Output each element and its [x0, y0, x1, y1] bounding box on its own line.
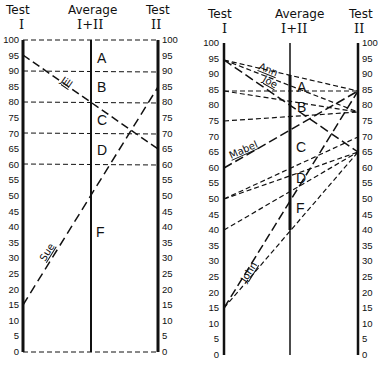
sue-label: Sue — [37, 241, 56, 263]
tick-label: 65 — [362, 146, 373, 157]
tick-label: 100 — [162, 34, 178, 45]
left-nomograph: Test I Average I+II Test II A B C D F Ji — [5, 3, 170, 352]
left-test1-num: I — [19, 17, 24, 32]
tick-label: 85 — [8, 81, 19, 92]
tick-label: 0 — [162, 346, 167, 357]
right-average-header: Average — [275, 7, 324, 21]
tick-label: 15 — [162, 299, 173, 310]
tick-label: 0 — [362, 349, 367, 360]
tick-label: 20 — [162, 284, 173, 295]
tick-label: 35 — [208, 240, 219, 251]
tick-label: 20 — [362, 287, 373, 298]
tick-label: 70 — [362, 131, 373, 142]
tick-label: 70 — [162, 128, 173, 139]
tick-label: 75 — [8, 112, 19, 123]
right-nomograph: Test I Average I+II Test II A B C D F — [207, 7, 373, 355]
tick-label: 90 — [162, 65, 173, 76]
tick-label: 80 — [362, 99, 373, 110]
grade-f: F — [96, 224, 105, 240]
tick-label: 85 — [162, 81, 173, 92]
grade-a: A — [297, 79, 307, 95]
tick-label: 80 — [162, 96, 173, 107]
right-test2-header: Test — [348, 7, 373, 21]
nomograph-figure: Test I Average I+II Test II A B C D F Ji — [0, 0, 380, 366]
tick-label: 15 — [208, 302, 219, 313]
tick-label: 60 — [8, 159, 19, 170]
tick-label: 30 — [208, 255, 219, 266]
tick-label: 90 — [208, 68, 219, 79]
left-test2-num: II — [151, 17, 161, 32]
tick-label: 15 — [8, 299, 19, 310]
tick-label: 85 — [362, 84, 373, 95]
tick-label: 100 — [362, 37, 378, 48]
tick-label: 5 — [162, 330, 167, 341]
tick-label: 100 — [203, 37, 219, 48]
tick-label: 95 — [162, 50, 173, 61]
tick-label: 40 — [208, 224, 219, 235]
left-grade-labels: A B C D F — [96, 50, 107, 240]
tick-label: 60 — [208, 162, 219, 173]
tick-label: 40 — [362, 224, 373, 235]
tick-label: 35 — [162, 237, 173, 248]
tick-label: 20 — [8, 284, 19, 295]
tick-label: 65 — [208, 146, 219, 157]
tick-label: 0 — [14, 346, 19, 357]
tick-label: 65 — [162, 143, 173, 154]
right-test2-tick-labels: 1009590858075706560555045403530252015105… — [362, 37, 378, 360]
tick-label: 25 — [362, 271, 373, 282]
tick-label: 50 — [162, 190, 173, 201]
tick-label: 5 — [14, 330, 19, 341]
tick-label: 85 — [208, 84, 219, 95]
right-test2-num: II — [354, 21, 364, 36]
right-average-num: I+II — [281, 21, 307, 36]
tick-label: 75 — [162, 112, 173, 123]
tick-label: 95 — [8, 50, 19, 61]
left-test2-tick-labels: 1009590858075706560555045403530252015105… — [162, 34, 178, 357]
tick-label: 65 — [8, 143, 19, 154]
grade-c: C — [97, 112, 107, 128]
tick-label: 45 — [362, 209, 373, 220]
tick-label: 10 — [208, 318, 219, 329]
jill-label: Jill — [58, 74, 74, 90]
tick-label: 90 — [362, 68, 373, 79]
tick-label: 90 — [8, 65, 19, 76]
tick-label: 20 — [208, 287, 219, 298]
tick-label: 10 — [8, 315, 19, 326]
tick-label: 35 — [362, 240, 373, 251]
tick-label: 30 — [162, 252, 173, 263]
tick-label: 30 — [8, 252, 19, 263]
tick-label: 15 — [362, 302, 373, 313]
tick-label: 75 — [362, 115, 373, 126]
tick-label: 25 — [208, 271, 219, 282]
right-test1-header: Test — [207, 7, 232, 21]
tick-label: 50 — [8, 190, 19, 201]
tick-label: 45 — [8, 206, 19, 217]
grade-c: C — [296, 139, 306, 155]
left-test2-header: Test — [145, 3, 170, 17]
tick-label: 5 — [214, 333, 219, 344]
tick-label: 95 — [208, 53, 219, 64]
tick-label: 55 — [8, 174, 19, 185]
tick-label: 95 — [362, 53, 373, 64]
tick-label: 60 — [362, 162, 373, 173]
tick-label: 75 — [208, 115, 219, 126]
tick-label: 55 — [362, 177, 373, 188]
left-average-num: I+II — [77, 17, 103, 32]
tick-label: 25 — [8, 268, 19, 279]
tick-label: 10 — [162, 315, 173, 326]
right-test1-num: I — [222, 21, 227, 36]
tick-label: 55 — [208, 177, 219, 188]
grade-d: D — [97, 142, 107, 158]
right-test1-tick-labels: 1009590858075706560555045403530252015105… — [203, 37, 219, 360]
tick-label: 80 — [8, 96, 19, 107]
tick-label: 80 — [208, 99, 219, 110]
grade-a: A — [97, 50, 107, 66]
tick-label: 40 — [8, 221, 19, 232]
left-test1-tick-labels: 1009590858075706560555045403530252015105… — [3, 34, 19, 357]
tick-label: 70 — [8, 128, 19, 139]
grade-b: B — [97, 79, 106, 95]
tick-label: 50 — [208, 193, 219, 204]
tick-label: 0 — [214, 349, 219, 360]
tick-label: 45 — [208, 209, 219, 220]
tick-label: 60 — [162, 159, 173, 170]
